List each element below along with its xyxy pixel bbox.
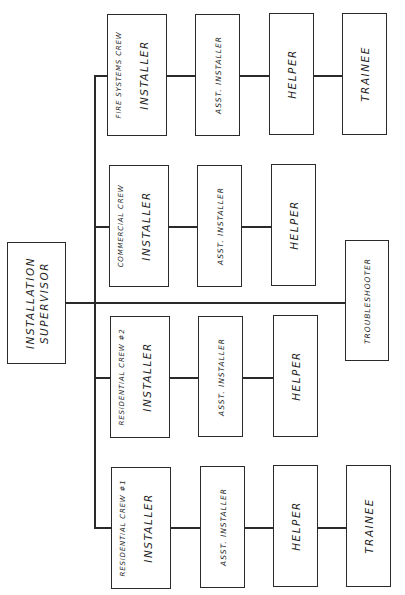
commercial-installer-label: INSTALLER	[140, 191, 152, 260]
res2-asst-installer-box: ASST. INSTALLER	[198, 316, 243, 437]
res1-asst-installer-label: ASST. INSTALLER	[218, 488, 227, 566]
res1-trainee-label: TRAINEE	[363, 498, 375, 554]
commercial-installer-box: COMMERCIAL CREW INSTALLER	[109, 165, 169, 287]
org-chart: INSTALLATION SUPERVISOR TROUBLESHOOTER F…	[0, 0, 405, 595]
fire-installer-box: FIRE SYSTEMS CREW INSTALLER	[107, 14, 167, 136]
res2-crew-label-wrap: RESIDENTIAL CREW #2	[115, 317, 129, 437]
trunk-to-commercial-line	[94, 226, 110, 228]
commercial-helper-label: HELPER	[288, 200, 300, 250]
supervisor-label-line2: SUPERVISOR	[37, 257, 51, 349]
supervisor-label-line1: INSTALLATION	[23, 257, 37, 349]
res2-crew-label: RESIDENTIAL CREW #2	[118, 329, 126, 426]
fire-crew-label-wrap: FIRE SYSTEMS CREW	[112, 15, 126, 135]
fire-helper-box: HELPER	[269, 13, 314, 135]
supervisor-to-troubleshooter-line	[66, 302, 346, 304]
fire-helper-label: HELPER	[286, 49, 298, 99]
fire-asst-installer-box: ASST. INSTALLER	[195, 14, 240, 136]
supervisor-label: INSTALLATION SUPERVISOR	[23, 257, 51, 349]
commercial-crew-label: COMMERCIAL CREW	[117, 185, 125, 268]
res1-installer-label: INSTALLER	[142, 493, 154, 562]
fire-chain-line	[166, 75, 344, 77]
res1-chain-line	[171, 527, 347, 529]
fire-asst-installer-label: ASST. INSTALLER	[213, 36, 222, 114]
res2-asst-installer-label: ASST. INSTALLER	[216, 338, 225, 416]
fire-trainee-box: TRAINEE	[342, 13, 387, 135]
trunk-to-res1-line	[94, 527, 112, 529]
res2-helper-box: HELPER	[273, 315, 318, 437]
fire-crew-label: FIRE SYSTEMS CREW	[115, 32, 123, 119]
res2-installer-box: RESIDENTIAL CREW #2 INSTALLER	[110, 316, 170, 438]
res1-crew-label-wrap: RESIDENTIAL CREW #1	[116, 468, 130, 588]
res2-helper-label: HELPER	[290, 351, 302, 401]
res1-asst-installer-box: ASST. INSTALLER	[200, 466, 245, 588]
res1-crew-label: RESIDENTIAL CREW #1	[119, 480, 127, 577]
supervisor-box: INSTALLATION SUPERVISOR	[7, 242, 66, 364]
commercial-asst-installer-label: ASST. INSTALLER	[215, 187, 224, 265]
res1-helper-label: HELPER	[290, 501, 302, 551]
commercial-helper-box: HELPER	[271, 164, 316, 286]
res1-installer-box: RESIDENTIAL CREW #1 INSTALLER	[111, 467, 171, 589]
troubleshooter-label: TROUBLESHOOTER	[363, 258, 372, 344]
fire-installer-label: INSTALLER	[138, 40, 150, 109]
vertical-trunk-line	[94, 75, 96, 528]
res2-installer-label: INSTALLER	[141, 342, 153, 411]
res1-helper-box: HELPER	[273, 465, 318, 587]
trunk-to-res2-line	[94, 377, 111, 379]
res1-trainee-box: TRAINEE	[346, 465, 391, 587]
fire-trainee-label: TRAINEE	[359, 46, 371, 102]
commercial-crew-label-wrap: COMMERCIAL CREW	[114, 166, 128, 286]
trunk-to-fire-line	[94, 75, 108, 77]
commercial-asst-installer-box: ASST. INSTALLER	[197, 165, 242, 287]
troubleshooter-box: TROUBLESHOOTER	[345, 240, 389, 361]
